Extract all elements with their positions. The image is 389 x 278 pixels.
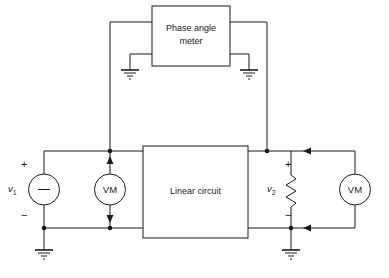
wire-phasemeter-left-ground-lead [130,54,152,70]
wire-phasemeter-right-ground-lead [230,54,249,70]
junction-dot-icon-top-left [108,149,113,154]
junction-dot-icon-bottom-left [108,226,113,231]
v2-label: v2 [267,184,276,197]
arrow-icon-top-right [303,148,311,155]
ground-phase-meter-right [240,70,258,79]
wire-phasemeter-left-to-node1 [110,22,152,151]
v2-plus-sign: + [285,158,291,170]
junction-dot-icon-top-right-tap [265,149,270,154]
v2-label-subscript: 2 [272,189,276,196]
ground-phase-meter-left [121,70,139,79]
circuit-diagram-canvas: Phase angle meter Linear circuit VM VM v… [0,0,389,278]
arrow-icon-bottom-right [303,225,311,232]
phase-angle-meter-label-line2: meter [159,36,223,46]
right-voltmeter-label: VM [344,185,366,196]
ground-load-right [282,250,300,259]
resistor-icon-v2[interactable] [286,175,296,207]
wire-phasemeter-right-to-node2 [230,22,267,151]
left-voltmeter-label: VM [99,185,121,196]
v1-plus-sign: + [21,158,27,170]
arrow-icon-left-vm-down [107,215,114,223]
v1-label-subscript: 1 [13,189,17,196]
v2-minus-sign: − [285,209,291,221]
v1-minus-sign: − [21,209,27,221]
phase-angle-meter-label-line1: Phase angle [159,23,223,33]
arrow-icon-left-vm-up [107,156,114,164]
v1-label: v1 [8,184,17,197]
junction-dot-icon-v1-bottom [42,226,47,231]
ground-source-left [35,250,53,259]
linear-circuit-label: Linear circuit [149,186,242,196]
